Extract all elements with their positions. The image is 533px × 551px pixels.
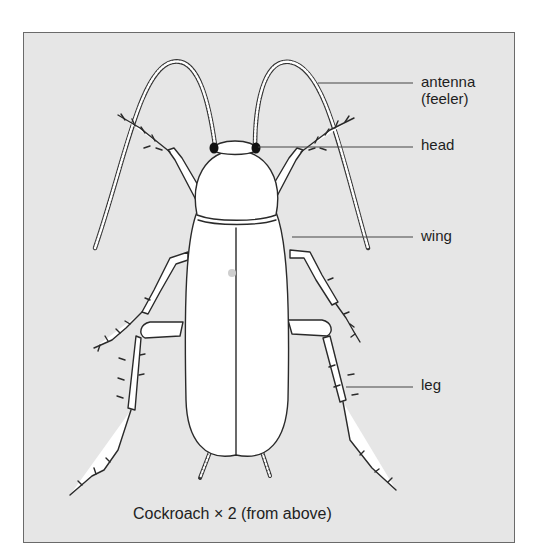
wings (185, 212, 288, 456)
label-wing: wing (421, 227, 452, 244)
head (212, 141, 258, 155)
eye-left (210, 143, 219, 154)
pronotum (195, 150, 277, 220)
label-antenna-text: antenna (421, 73, 475, 90)
hind-leg-right (288, 320, 396, 490)
label-leg: leg (421, 376, 441, 393)
hind-leg-left (70, 322, 183, 495)
diagram-caption: Cockroach × 2 (from above) (133, 505, 332, 523)
eye-right (252, 143, 261, 154)
label-head: head (421, 136, 454, 153)
label-antenna: antenna (feeler) (421, 73, 475, 107)
label-antenna-subtext: (feeler) (421, 90, 475, 107)
